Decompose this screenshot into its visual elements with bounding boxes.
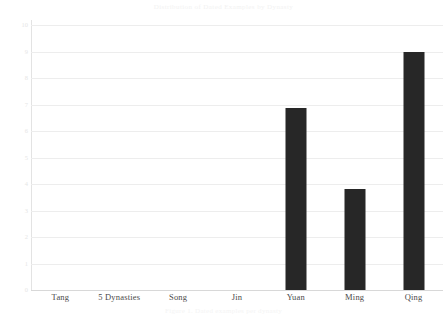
y-tick-label-0: 0 xyxy=(4,286,28,294)
x-tick-label-5-dynasties: 5 Dynasties xyxy=(90,291,149,303)
y-axis-tick-labels: 109876543210 xyxy=(0,25,28,290)
x-tick-label-tang: Tang xyxy=(31,291,90,303)
y-tick-label-7: 7 xyxy=(4,101,28,109)
x-tick-label-qing: Qing xyxy=(384,291,443,303)
x-axis-tick-labels: Tang5 DynastiesSongJinYuanMingQing xyxy=(31,291,443,305)
bar-slot xyxy=(384,25,443,290)
bar-slot xyxy=(266,25,325,290)
y-tick-label-5: 5 xyxy=(4,154,28,162)
x-tick-label-ming: Ming xyxy=(325,291,384,303)
y-tick-label-8: 8 xyxy=(4,74,28,82)
plot-area xyxy=(31,25,443,290)
x-tick-label-jin: Jin xyxy=(208,291,267,303)
bar-slot xyxy=(90,25,149,290)
bar-slot xyxy=(31,25,90,290)
bar-qing[interactable] xyxy=(403,52,424,291)
y-tick-label-9: 9 xyxy=(4,48,28,56)
bar-slot xyxy=(149,25,208,290)
bar-yuan[interactable] xyxy=(285,108,306,290)
x-tick-label-yuan: Yuan xyxy=(266,291,325,303)
y-tick-label-6: 6 xyxy=(4,127,28,135)
y-tick-label-10: 10 xyxy=(4,21,28,29)
bar-ming[interactable] xyxy=(344,189,365,290)
y-tick-label-4: 4 xyxy=(4,180,28,188)
bar-slot xyxy=(325,25,384,290)
y-tick-label-1: 1 xyxy=(4,260,28,268)
y-tick-label-2: 2 xyxy=(4,233,28,241)
chart-caption: Figure 1. Dated examples per dynasty xyxy=(0,307,447,315)
chart-title: Distribution of Dated Examples by Dynast… xyxy=(0,3,447,11)
y-tick-label-3: 3 xyxy=(4,207,28,215)
chart-figure: Distribution of Dated Examples by Dynast… xyxy=(0,0,447,319)
x-tick-label-song: Song xyxy=(149,291,208,303)
bar-slot xyxy=(208,25,267,290)
